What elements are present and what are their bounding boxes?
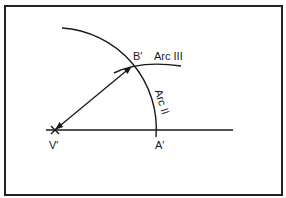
label-point-b: B′ (133, 51, 142, 62)
arc-ii (62, 28, 156, 137)
label-arc-iii: Arc III (154, 51, 183, 62)
construction-drawing (0, 0, 286, 198)
arc-iii (114, 64, 181, 73)
label-point-a: A′ (155, 140, 164, 151)
label-vertex: V′ (49, 140, 58, 151)
vertex-to-b-segment (56, 67, 131, 129)
